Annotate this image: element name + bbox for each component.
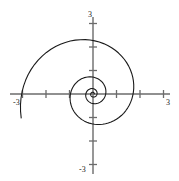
chart-canvas xyxy=(0,0,179,181)
y-axis-top-label: 3 xyxy=(88,11,92,19)
x-axis-left-label: -3 xyxy=(13,99,20,107)
polar-spiral-chart: 3 -3 -3 3 xyxy=(0,0,179,181)
logarithmic-spiral-curve xyxy=(20,40,133,125)
x-axis-right-label: 3 xyxy=(166,99,170,107)
y-axis-bottom-label: -3 xyxy=(79,166,86,174)
